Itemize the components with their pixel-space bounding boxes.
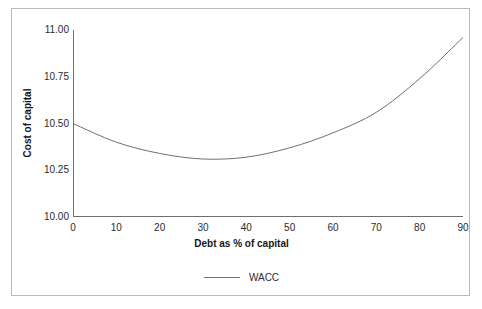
x-axis-tick-labels: 0102030405060708090 <box>12 223 471 237</box>
y-axis-tick-label: 10.00 <box>25 212 69 222</box>
x-axis-tick-label: 20 <box>140 223 180 233</box>
x-axis-tick-label: 50 <box>270 223 310 233</box>
legend-line-swatch <box>204 277 240 278</box>
chart-figure: 10.0010.2510.5010.7511.00 01020304050607… <box>0 0 482 309</box>
legend-label-wacc: WACC <box>249 272 279 283</box>
chart-frame: 10.0010.2510.5010.7511.00 01020304050607… <box>11 8 470 296</box>
wacc-line-series <box>74 31 463 217</box>
y-axis-tick-label: 11.00 <box>25 25 69 35</box>
chart-legend: WACC <box>12 272 471 283</box>
x-axis-tick-label: 80 <box>400 223 440 233</box>
x-axis-tick-label: 10 <box>96 223 136 233</box>
x-axis-title: Debt as % of capital <box>12 238 471 250</box>
y-axis-title: Cost of capital <box>22 63 34 183</box>
x-axis-tick-label: 70 <box>356 223 396 233</box>
x-axis-tick-label: 60 <box>313 223 353 233</box>
wacc-curve <box>74 37 463 159</box>
x-axis-tick-label: 40 <box>226 223 266 233</box>
x-axis-tick-label: 30 <box>183 223 223 233</box>
plot-area <box>74 31 463 217</box>
x-axis-tick-label: 90 <box>443 223 482 233</box>
x-axis-tick-label: 0 <box>53 223 93 233</box>
